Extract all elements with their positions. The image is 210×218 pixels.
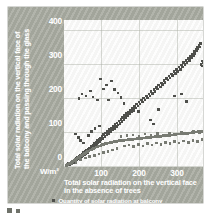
data-point	[184, 63, 187, 66]
data-point	[164, 81, 167, 84]
data-point	[174, 72, 177, 75]
page-artifacts	[7, 206, 47, 216]
data-point	[84, 157, 87, 160]
data-point	[155, 142, 158, 145]
data-point	[81, 93, 84, 96]
y-tick-200: 200	[40, 85, 62, 94]
data-point	[151, 144, 154, 147]
data-point	[113, 88, 116, 91]
data-point	[102, 88, 105, 91]
data-point	[87, 134, 90, 137]
data-point	[188, 59, 191, 62]
data-point	[111, 149, 114, 152]
data-point	[160, 143, 163, 146]
data-point	[133, 107, 136, 110]
data-point	[116, 147, 119, 150]
y-axis-title-line-2: the balcony and passing through the glas…	[23, 29, 32, 169]
data-point	[196, 140, 199, 143]
data-point	[156, 132, 159, 135]
data-point	[169, 142, 172, 145]
data-point	[88, 155, 91, 158]
data-point	[78, 97, 81, 100]
data-point	[93, 154, 96, 157]
x-tick-100: 100	[89, 168, 113, 178]
legend-item-balcony: Quantity of solar radiation at balcony	[52, 197, 203, 203]
data-point	[70, 162, 73, 165]
data-point	[152, 123, 155, 126]
x-tick-300: 300	[165, 168, 189, 178]
data-point	[199, 42, 202, 45]
data-point	[194, 52, 197, 55]
data-point	[142, 145, 145, 148]
data-point	[168, 132, 171, 135]
data-point	[146, 142, 149, 145]
data-point	[107, 150, 110, 153]
data-point	[110, 80, 113, 83]
artifact-mark-2	[16, 209, 20, 213]
data-point	[173, 95, 176, 98]
gridline-y-0	[64, 166, 203, 167]
data-point	[173, 140, 176, 143]
x-tick-200: 200	[127, 168, 151, 178]
data-point	[98, 125, 101, 128]
data-point	[149, 95, 152, 98]
chart-legend: Quantity of solar radiation at balcony Q…	[52, 197, 203, 203]
data-point	[174, 133, 177, 136]
chart-figure: Total solar radiation on the vertical fa…	[8, 7, 203, 203]
legend-label-balcony: Quantity of solar radiation at balcony	[58, 197, 162, 203]
data-point	[120, 96, 123, 99]
data-point	[162, 134, 165, 137]
data-point	[92, 96, 95, 99]
data-point	[132, 145, 135, 148]
data-point	[164, 141, 167, 144]
data-point	[132, 134, 135, 137]
data-point	[74, 133, 77, 136]
data-point	[137, 143, 140, 146]
plot-area	[64, 20, 203, 167]
data-point	[102, 151, 105, 154]
data-point	[85, 95, 88, 98]
data-point	[149, 119, 152, 122]
x-axis-title-line-2: in the absence of trees	[64, 187, 203, 195]
data-point	[198, 132, 201, 135]
data-point	[190, 57, 193, 60]
data-point	[186, 132, 189, 135]
data-point	[192, 130, 195, 133]
y-tick-0: 0	[40, 153, 62, 162]
data-point	[185, 100, 188, 103]
data-point	[94, 127, 97, 130]
data-point	[117, 92, 120, 95]
data-point	[79, 158, 82, 161]
data-point	[179, 68, 182, 71]
gridline-x-300	[177, 20, 178, 167]
data-point	[98, 153, 101, 156]
data-point	[180, 93, 183, 96]
data-point	[96, 99, 99, 102]
data-point	[150, 134, 153, 137]
gridline-y-200	[64, 98, 203, 99]
data-point	[192, 139, 195, 142]
data-point	[201, 138, 203, 141]
data-point	[187, 141, 190, 144]
artifact-mark-1	[7, 208, 12, 213]
y-tick-100: 100	[40, 119, 62, 128]
data-point	[128, 144, 131, 147]
data-point	[105, 84, 108, 87]
data-point	[123, 102, 126, 105]
data-point	[75, 161, 78, 164]
data-point	[138, 135, 141, 138]
data-point	[99, 78, 102, 81]
data-point	[89, 90, 92, 93]
data-point	[90, 130, 93, 133]
data-point	[123, 145, 126, 148]
data-point	[144, 133, 147, 136]
data-point	[169, 77, 172, 80]
data-point	[180, 131, 183, 134]
data-point	[202, 61, 203, 64]
data-point	[137, 110, 140, 113]
legend-swatch-balcony-icon	[52, 199, 55, 202]
data-point	[154, 90, 157, 93]
data-point	[107, 99, 110, 102]
data-point	[126, 134, 129, 137]
data-point	[159, 86, 162, 89]
